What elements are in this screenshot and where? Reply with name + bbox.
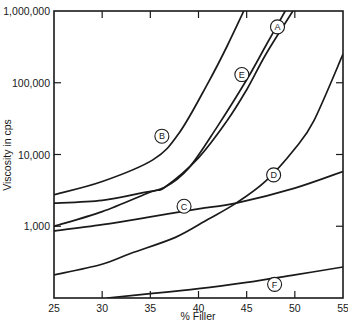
svg-text:A: A <box>274 22 280 32</box>
y-tick-label: 10,000 <box>18 149 50 161</box>
svg-text:B: B <box>159 131 165 141</box>
svg-text:E: E <box>239 70 245 80</box>
curve-label-c: C <box>177 199 191 213</box>
y-tick-label: 1,000,000 <box>3 5 50 17</box>
curve-e <box>54 11 285 203</box>
x-tick-label: 25 <box>48 302 60 314</box>
curves <box>54 11 343 298</box>
x-tick-label: 55 <box>337 302 348 314</box>
curve-d <box>54 54 343 275</box>
svg-text:F: F <box>272 280 278 290</box>
x-tick-label: 35 <box>144 302 156 314</box>
y-tick-label: 1,000 <box>24 220 50 232</box>
curve-label-f: F <box>268 277 282 291</box>
y-axis-title: Viscosity in cps <box>1 119 13 191</box>
svg-text:C: C <box>181 202 188 212</box>
curve-f <box>107 267 343 298</box>
curve-a <box>54 11 293 226</box>
y-tick-label: 100,000 <box>12 77 50 89</box>
curve-label-d: D <box>267 168 281 182</box>
curve-b <box>54 11 244 195</box>
svg-text:D: D <box>270 170 277 180</box>
x-axis-title: % Filler <box>180 310 216 322</box>
curve-label-e: E <box>235 68 249 82</box>
x-tick-label: 45 <box>241 302 253 314</box>
curve-label-a: A <box>270 20 284 34</box>
curve-label-b: B <box>155 129 169 143</box>
x-tick-label: 30 <box>96 302 108 314</box>
x-tick-label: 50 <box>289 302 301 314</box>
viscosity-chart: 253035404550551,00010,000100,0001,000,00… <box>0 0 348 325</box>
axis-ticks: 253035404550551,00010,000100,0001,000,00… <box>3 5 348 314</box>
